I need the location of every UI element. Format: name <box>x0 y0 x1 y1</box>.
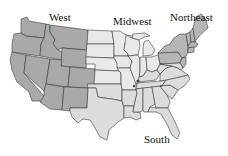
city-marker <box>136 79 139 82</box>
region-label-west: West <box>49 12 71 23</box>
region-label-northeast: Northeast <box>170 12 213 23</box>
region-west <box>10 17 95 111</box>
region-label-midwest: Midwest <box>113 16 152 27</box>
city-marker <box>133 85 135 87</box>
region-label-south: South <box>144 134 170 145</box>
